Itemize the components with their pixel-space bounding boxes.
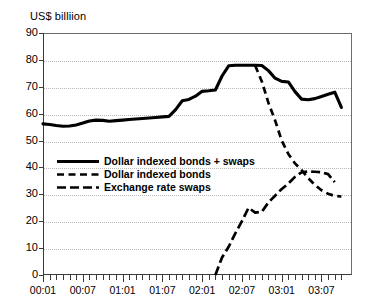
x-axis-minor-tick bbox=[96, 275, 97, 280]
x-axis-minor-tick bbox=[268, 275, 269, 280]
x-axis-tick-label: 01:07 bbox=[149, 284, 175, 296]
x-axis-minor-tick bbox=[116, 275, 117, 280]
x-axis-minor-tick bbox=[308, 275, 309, 280]
y-axis-tick-label: 50 bbox=[14, 134, 38, 146]
x-axis-minor-tick bbox=[109, 275, 110, 280]
y-axis-tick-label: 60 bbox=[14, 107, 38, 119]
series-line-dollar-indexed-bonds bbox=[255, 66, 341, 197]
legend-item: Exchange rate swaps bbox=[57, 181, 255, 194]
x-axis-minor-tick bbox=[149, 275, 150, 280]
x-axis-tick-label: 01:01 bbox=[109, 284, 135, 296]
legend-swatch-solid bbox=[57, 156, 99, 167]
x-axis-minor-tick bbox=[56, 275, 57, 280]
x-axis-tick-label: 00:01 bbox=[30, 284, 56, 296]
x-axis-minor-tick bbox=[209, 275, 210, 280]
x-axis-major-tick bbox=[202, 275, 203, 282]
x-axis-minor-tick bbox=[335, 275, 336, 280]
x-axis-tick-label: 02:07 bbox=[229, 284, 255, 296]
chart-container: US$ billiion 0102030405060708090 00:0100… bbox=[0, 0, 367, 308]
x-axis-minor-tick bbox=[76, 275, 77, 280]
legend-item: Dollar indexed bonds bbox=[57, 168, 255, 181]
x-axis-minor-tick bbox=[229, 275, 230, 280]
x-axis-minor-tick bbox=[262, 275, 263, 280]
x-axis-minor-tick bbox=[89, 275, 90, 280]
y-axis-labels: 0102030405060708090 bbox=[8, 33, 38, 275]
x-axis-minor-tick bbox=[315, 275, 316, 280]
y-axis-tick-label: 30 bbox=[14, 187, 38, 199]
y-axis-tick-label: 70 bbox=[14, 80, 38, 92]
x-axis-major-tick bbox=[43, 275, 44, 282]
x-axis-major-tick bbox=[242, 275, 243, 282]
x-axis-minor-tick bbox=[176, 275, 177, 280]
y-axis-tick-label: 0 bbox=[14, 268, 38, 280]
x-axis-minor-tick bbox=[70, 275, 71, 280]
legend-item: Dollar indexed bonds + swaps bbox=[57, 155, 255, 168]
x-axis-minor-tick bbox=[189, 275, 190, 280]
x-axis-minor-tick bbox=[63, 275, 64, 280]
x-axis-major-tick bbox=[162, 275, 163, 282]
series-line-dollar-indexed-bonds-swaps bbox=[43, 65, 341, 126]
x-axis-minor-tick bbox=[196, 275, 197, 280]
legend-swatch-dashed bbox=[57, 169, 99, 180]
x-axis-minor-tick bbox=[222, 275, 223, 280]
legend-label: Dollar indexed bonds + swaps bbox=[104, 156, 255, 167]
x-axis-tick-label: 02:01 bbox=[189, 284, 215, 296]
legend-label: Exchange rate swaps bbox=[104, 182, 211, 193]
y-axis-tick-label: 10 bbox=[14, 241, 38, 253]
x-axis-major-tick bbox=[83, 275, 84, 282]
x-axis-tick-label: 00:07 bbox=[70, 284, 96, 296]
x-axis-minor-tick bbox=[341, 275, 342, 280]
x-axis-minor-tick bbox=[295, 275, 296, 280]
x-axis-major-tick bbox=[123, 275, 124, 282]
x-axis-major-tick bbox=[282, 275, 283, 282]
legend-label: Dollar indexed bonds bbox=[104, 169, 211, 180]
x-axis-minor-tick bbox=[255, 275, 256, 280]
x-axis-minor-tick bbox=[275, 275, 276, 280]
x-axis-minor-tick bbox=[142, 275, 143, 280]
x-axis-minor-tick bbox=[288, 275, 289, 280]
chart-legend: Dollar indexed bonds + swapsDollar index… bbox=[57, 155, 255, 194]
x-axis-tick-label: 03:07 bbox=[308, 284, 334, 296]
series-lines bbox=[43, 33, 352, 275]
y-axis-tick-label: 80 bbox=[14, 53, 38, 65]
x-axis-minor-tick bbox=[215, 275, 216, 280]
x-axis-minor-tick bbox=[169, 275, 170, 280]
legend-swatch-dash-dot bbox=[57, 182, 99, 193]
x-axis-minor-tick bbox=[235, 275, 236, 280]
y-axis-title: US$ billiion bbox=[30, 10, 86, 22]
x-axis-minor-tick bbox=[136, 275, 137, 280]
x-axis-minor-tick bbox=[156, 275, 157, 280]
y-axis-tick-label: 40 bbox=[14, 160, 38, 172]
y-axis-tick-label: 90 bbox=[14, 26, 38, 38]
x-axis-minor-tick bbox=[249, 275, 250, 280]
x-axis-minor-tick bbox=[103, 275, 104, 280]
x-axis-minor-tick bbox=[182, 275, 183, 280]
x-axis-major-tick bbox=[321, 275, 322, 282]
x-axis-minor-tick bbox=[129, 275, 130, 280]
x-axis-minor-tick bbox=[50, 275, 51, 280]
x-axis-minor-tick bbox=[302, 275, 303, 280]
x-axis-tick-label: 03:01 bbox=[269, 284, 295, 296]
x-axis-minor-tick bbox=[328, 275, 329, 280]
y-axis-tick-label: 20 bbox=[14, 214, 38, 226]
